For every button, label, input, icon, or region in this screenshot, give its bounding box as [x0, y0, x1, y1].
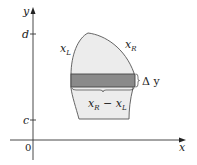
height-bracket [136, 74, 140, 87]
right-curve-label: xR [125, 38, 137, 53]
x-axis-label: x [179, 141, 186, 154]
diagram-canvas: y x 0 d c xL xR Δ y xR − xL [0, 0, 197, 165]
y-axis-label: y [22, 5, 30, 18]
left-curve-label: xL [60, 42, 71, 57]
y-axis-arrow-icon [31, 7, 36, 14]
tick-label-c: c [23, 114, 29, 127]
origin-label: 0 [25, 142, 31, 153]
strip-width-label: xR − xL [88, 97, 127, 112]
horizontal-strip [71, 74, 135, 87]
delta-y-label: Δ y [142, 75, 160, 88]
tick-label-d: d [22, 28, 29, 41]
